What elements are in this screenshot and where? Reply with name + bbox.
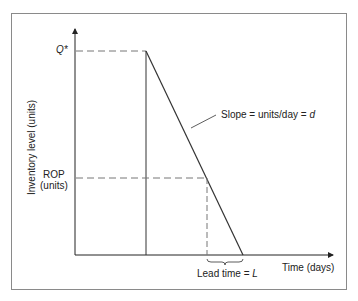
- lead-time-brace: [207, 259, 243, 265]
- y-axis-label: Inventory level (units): [26, 100, 37, 195]
- lead-time-symbol: L: [252, 268, 258, 279]
- slope-symbol: d: [309, 109, 315, 120]
- q-star-label: Q*: [56, 44, 68, 55]
- slope-label: Slope = units/day = d: [221, 109, 315, 120]
- depletion-slope-line: [146, 51, 243, 255]
- inventory-diagram: [0, 0, 358, 301]
- lead-time-text: Lead time =: [197, 268, 252, 279]
- slope-leader-line: [191, 115, 216, 128]
- lead-time-label: Lead time = L: [197, 268, 258, 279]
- x-axis-label: Time (days): [282, 262, 334, 273]
- slope-label-text: Slope = units/day =: [221, 109, 309, 120]
- rop-label-line2: (units): [40, 180, 68, 191]
- rop-label-line1: ROP: [40, 169, 68, 180]
- rop-label: ROP (units): [40, 169, 68, 191]
